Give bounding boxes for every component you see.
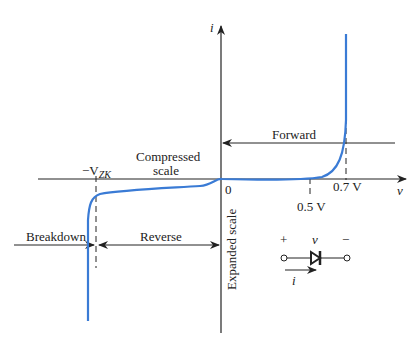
forward-label: Forward bbox=[272, 127, 317, 142]
x-axis-label: v bbox=[397, 183, 403, 198]
y-axis-label: i bbox=[210, 20, 214, 35]
origin-label: 0 bbox=[225, 182, 232, 197]
tick-0.5v: 0.5 V bbox=[297, 199, 326, 214]
diode-symbol: + v − i bbox=[280, 232, 350, 288]
voltage-label: v bbox=[312, 232, 318, 247]
compressed-label-1: Compressed bbox=[136, 149, 201, 164]
breakdown-label: Breakdown bbox=[26, 229, 86, 244]
plus-sign: + bbox=[280, 232, 287, 247]
diode-iv-diagram: i v 0 0.7 V 0.5 V −VZK Forward Compresse… bbox=[0, 0, 418, 350]
tick-0.7v: 0.7 V bbox=[333, 179, 362, 194]
iv-curve bbox=[88, 34, 346, 321]
compressed-label-2: scale bbox=[153, 163, 179, 178]
minus-sign: − bbox=[342, 232, 349, 247]
reverse-label: Reverse bbox=[140, 229, 182, 244]
tick-vzk: −VZK bbox=[82, 163, 112, 180]
current-label: i bbox=[292, 273, 296, 288]
expanded-scale-label: Expanded scale bbox=[224, 209, 239, 290]
